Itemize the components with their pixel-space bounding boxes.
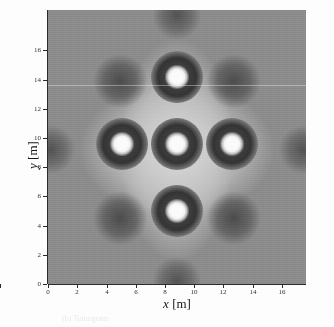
- y-ticklabel-16: 16: [34, 46, 41, 54]
- figure-root: 0 2 4 6 8 10 12 14 16 0 2 4 6 8 10 12 14…: [0, 0, 334, 327]
- y-axis-label: y [m]: [25, 110, 41, 200]
- y-tick-8: [43, 167, 47, 168]
- grain-noise-layer: [48, 10, 306, 284]
- y-axis-unit: [m]: [25, 141, 40, 163]
- y-axis-symbol: y: [25, 163, 40, 169]
- x-ticklabel-2: 2: [75, 288, 79, 296]
- y-tick-16: [43, 50, 47, 51]
- y-ticklabel-4: 4: [38, 222, 42, 230]
- y-tick-4: [43, 226, 47, 227]
- x-ticklabel-8: 8: [163, 288, 167, 296]
- x-ticklabel-4: 4: [105, 288, 109, 296]
- y-tick-10: [43, 138, 47, 139]
- y-ticklabel-0: 0: [38, 280, 42, 288]
- x-axis-unit: [m]: [169, 296, 191, 311]
- x-ticklabel-6: 6: [134, 288, 138, 296]
- x-ticklabel-0: 0: [46, 288, 50, 296]
- x-ticklabel-12: 12: [220, 288, 227, 296]
- figure-caption: (b) Tomogram: [62, 314, 282, 323]
- y-axis-line: [47, 10, 48, 284]
- tomogram-figure: 0 2 4 6 8 10 12 14 16 0 2 4 6 8 10 12 14…: [0, 0, 334, 327]
- y-tick-12: [43, 109, 47, 110]
- y-tick-6: [43, 196, 47, 197]
- heatmap-plot-area: [48, 10, 306, 284]
- x-axis-label: x [m]: [48, 296, 306, 312]
- x-ticklabel-14: 14: [250, 288, 257, 296]
- x-axis-line: [48, 284, 306, 285]
- y-tick-2: [43, 255, 47, 256]
- y-tick-0: [43, 284, 47, 285]
- x-ticklabel-16: 16: [279, 288, 286, 296]
- y-ticklabel-2: 2: [38, 251, 42, 259]
- x-ticklabel-10: 10: [191, 288, 198, 296]
- y-ticklabel-14: 14: [34, 76, 41, 84]
- y-tick-14: [43, 80, 47, 81]
